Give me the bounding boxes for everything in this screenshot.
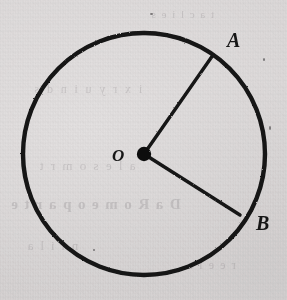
- radius-oa-line: [144, 55, 213, 154]
- scanned-page: t a c l i e s i x r y u i n d s a l e s …: [0, 0, 287, 300]
- center-o-label: O: [112, 146, 124, 165]
- circle-diagram: A B O: [0, 0, 287, 300]
- point-a-label: A: [225, 29, 240, 51]
- radius-ob-line: [144, 154, 240, 215]
- center-dot: [137, 147, 151, 161]
- point-b-label: B: [255, 212, 269, 234]
